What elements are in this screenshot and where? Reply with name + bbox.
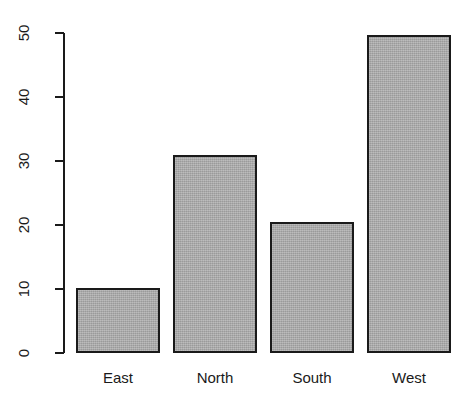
bar-south	[270, 222, 354, 353]
bars-group	[0, 0, 465, 410]
category-label-east: East	[103, 369, 133, 386]
category-label-south: South	[292, 369, 331, 386]
bar-east	[76, 288, 160, 353]
category-label-north: North	[197, 369, 234, 386]
bar-west	[367, 35, 451, 353]
bar-chart: 01020304050 EastNorthSouthWest	[0, 0, 465, 410]
category-label-west: West	[392, 369, 426, 386]
bar-north	[173, 155, 257, 353]
